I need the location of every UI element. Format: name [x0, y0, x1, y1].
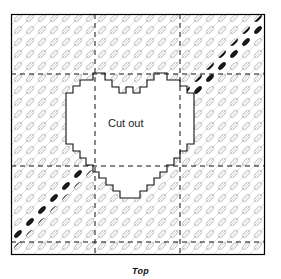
figure-caption: Top	[0, 266, 281, 279]
hatched-panel-fill	[11, 14, 265, 255]
figure-container: Cut out Top	[0, 0, 281, 279]
cutout-diagram	[0, 0, 281, 279]
cut-out-label: Cut out	[108, 117, 143, 129]
